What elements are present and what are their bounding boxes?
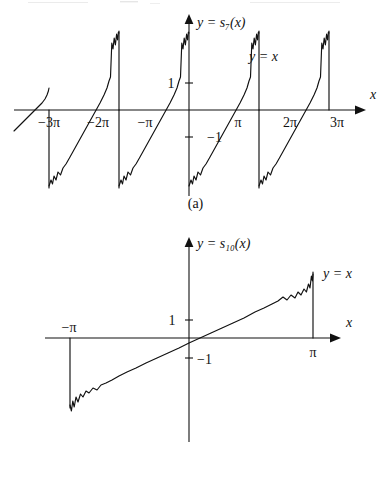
chart-a-svg: y = s₇(x) y = x x 1 −1 −3π −2π −π π 2π 3… xyxy=(0,0,391,200)
x-tick-label-pi-b: π xyxy=(309,345,316,360)
fourier-partial-sums-figure: y = s₇(x) y = x x 1 −1 −3π −2π −π π 2π 3… xyxy=(0,0,391,478)
jump-lines-b xyxy=(70,272,313,408)
x-tick-label-3pi-a: 3π xyxy=(330,115,344,130)
x-axis-label-a: x xyxy=(369,87,377,102)
chart-panel-b: y = s₁₀(x) y = x x 1 −1 −π π (b) xyxy=(0,230,391,478)
x-tick-label-neg-3pi-a: −3π xyxy=(38,115,60,130)
y-axis-b xyxy=(185,237,194,442)
chart-b-svg: y = s₁₀(x) y = x x 1 −1 −π π xyxy=(0,230,391,478)
curve-s10 xyxy=(70,274,313,411)
x-axis-label-b: x xyxy=(345,315,353,330)
panel-caption-a: (a) xyxy=(0,196,391,212)
x-axis-a xyxy=(14,106,366,115)
y-tick-label-neg-one-b: −1 xyxy=(197,352,212,367)
y-tick-label-one-b: 1 xyxy=(169,313,176,328)
x-tick-label-neg-pi-b: −π xyxy=(62,320,77,335)
curve-label-a: y = x xyxy=(247,49,279,64)
x-tick-label-neg-pi-a: −π xyxy=(138,115,153,130)
curve-label-b: y = x xyxy=(321,266,353,281)
x-tick-label-2pi-a: 2π xyxy=(283,115,297,130)
y-axis-title-a: y = s₇(x) xyxy=(195,15,246,31)
y-axis-title-b: y = s₁₀(x) xyxy=(195,236,251,252)
curve-s7 xyxy=(14,32,329,186)
x-tick-label-pi-a: π xyxy=(234,115,241,130)
x-tick-label-neg-2pi-a: −2π xyxy=(87,115,109,130)
y-tick-label-one-a: 1 xyxy=(168,76,175,91)
chart-panel-a: y = s₇(x) y = x x 1 −1 −3π −2π −π π 2π 3… xyxy=(0,0,391,230)
y-tick-label-neg-one-a: −1 xyxy=(207,130,222,145)
